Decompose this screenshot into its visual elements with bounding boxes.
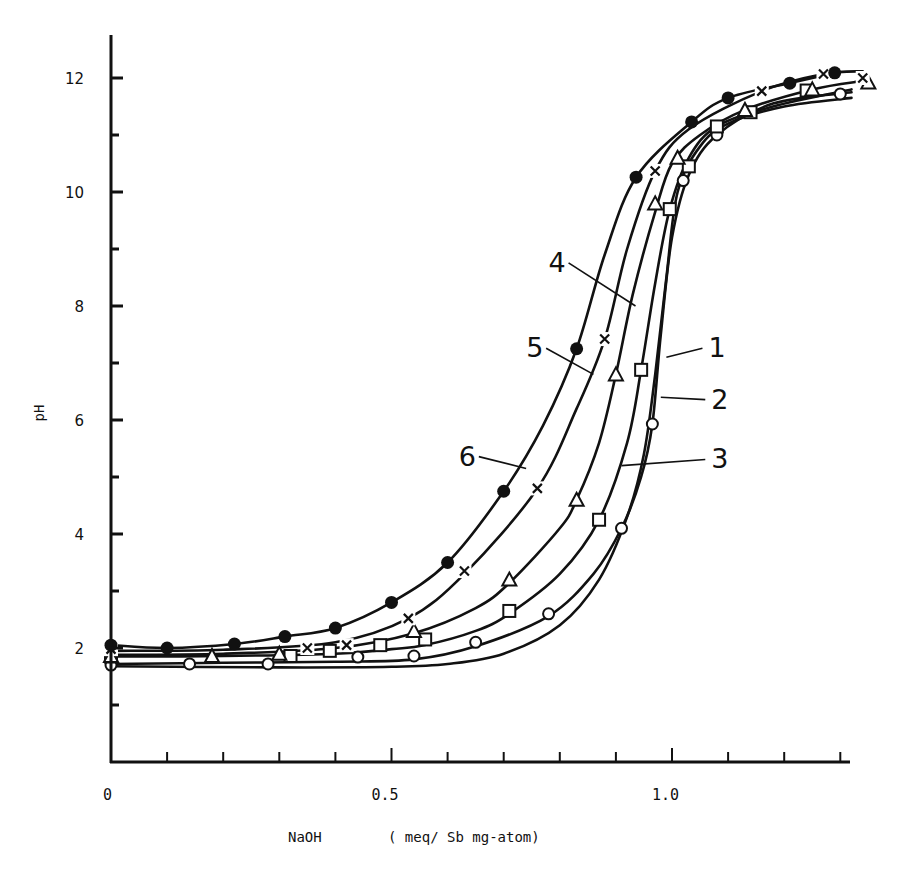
y-tick-label: 10 [65,184,84,202]
filled-circle-marker [685,115,698,128]
open-square-marker [374,639,386,651]
curve-label-1: 1 [708,332,725,363]
open-triangle-marker [609,367,623,380]
filled-circle-marker [385,596,398,609]
filled-circle-marker [570,342,583,355]
curve-1 [111,98,852,668]
curve-6 [111,73,835,648]
y-tick-label: 8 [74,298,84,316]
open-circle-marker [543,608,554,619]
curve-5 [111,71,863,651]
x-axis-title-unit: ( meq/ Sb mg-atom) [388,829,540,845]
y-axis-title: pH [31,405,47,422]
x-tick-label: 0 [103,786,112,804]
open-circle-marker [678,175,689,186]
curve-labels-layer: 123456 [459,247,729,475]
x-tick-label: 1.0 [652,786,679,804]
curve-label-5: 5 [526,332,543,363]
open-circle-marker [470,637,481,648]
y-tick-label: 12 [65,70,84,88]
filled-circle-marker [497,485,510,498]
y-tick-label: 2 [74,640,84,658]
label-leader-3 [622,459,706,465]
open-square-marker [324,645,336,657]
label-leader-2 [661,397,705,399]
x-ticks: 00.51.0 [103,748,840,804]
open-circle-marker [616,523,627,534]
filled-circle-marker [161,642,174,655]
y-tick-label: 4 [74,526,84,544]
curve-label-2: 2 [711,384,728,415]
filled-circle-marker [441,556,454,569]
filled-circle-marker [630,171,643,184]
open-circle-marker [352,652,363,663]
curve-label-6: 6 [459,441,476,472]
curve-label-4: 4 [549,247,566,278]
curves-layer [111,71,863,667]
curve-label-3: 3 [711,443,728,474]
curve-3 [111,89,852,656]
filled-circle-marker [783,77,796,90]
label-leader-5 [546,348,593,374]
open-circle-marker [647,418,658,429]
x-tick-label: 0.5 [372,786,399,804]
open-circle-marker [408,650,419,661]
x-axis-title-quantity: NaOH [288,829,322,845]
axes-layer: 24681012 00.51.0 [65,35,850,804]
open-circle-marker [835,88,846,99]
y-ticks: 24681012 [65,70,123,705]
filled-circle-marker [828,66,841,79]
filled-circle-marker [329,622,342,635]
label-leader-1 [666,348,702,357]
open-square-marker [503,605,515,617]
label-leader-4 [569,263,636,306]
open-square-marker [593,514,605,526]
label-leader-6 [479,457,526,469]
open-circle-marker [184,658,195,669]
markers-layer [104,66,875,670]
curve-4 [111,81,863,655]
y-tick-label: 6 [74,412,84,430]
open-square-marker [711,120,723,132]
open-triangle-marker [570,493,584,506]
filled-circle-marker [228,638,241,651]
open-triangle-marker [671,151,685,164]
filled-circle-marker [722,91,735,104]
open-square-marker [635,364,647,376]
titration-chart: 123456 24681012 00.51.0 pH NaOH ( meq/ S… [0,0,897,880]
filled-circle-marker [278,630,291,643]
curve-2 [111,92,852,664]
open-square-marker [664,203,676,215]
